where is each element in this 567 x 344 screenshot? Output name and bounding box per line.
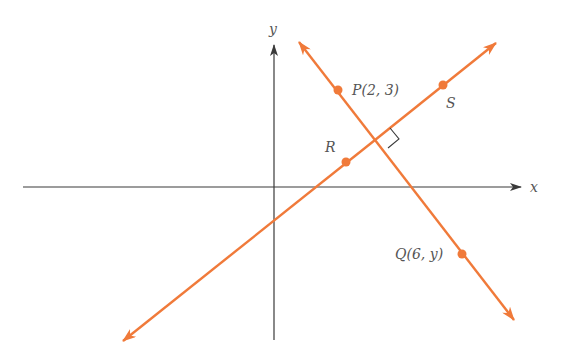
x-axis-label: x <box>530 179 538 195</box>
line-rs-backward <box>123 140 375 341</box>
point-r <box>342 158 351 167</box>
point-s <box>439 81 448 90</box>
axes: x y <box>23 21 538 340</box>
point-labels: P(2, 3) Q(6, y) R S <box>324 82 456 262</box>
line-pq <box>299 42 514 320</box>
y-axis-label: y <box>268 21 278 37</box>
coordinate-diagram: x y P(2, 3) Q(6, y) R S <box>0 0 567 344</box>
label-s: S <box>446 95 456 111</box>
label-q: Q(6, y) <box>395 246 443 262</box>
label-r: R <box>324 139 336 155</box>
right-angle-marker <box>388 128 399 148</box>
point-p <box>334 86 343 95</box>
label-p: P(2, 3) <box>351 82 399 98</box>
point-q <box>458 250 467 259</box>
line-pq-down <box>375 140 514 320</box>
